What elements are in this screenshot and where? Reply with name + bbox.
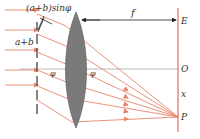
diffraction-grating-diagram: (a+b)sinφ a+b f E O x P φ φ [0, 0, 200, 139]
convex-lens [66, 12, 87, 128]
path-difference-label: (a+b)sinφ [26, 3, 72, 13]
focal-length-label: f [130, 7, 137, 18]
center-label-O: O [181, 64, 189, 74]
angle-left-label: φ [50, 69, 56, 78]
angle-right-label: φ [90, 69, 96, 78]
path-difference-marker [38, 16, 52, 32]
diffracted-rays [37, 14, 178, 122]
incident-rays [5, 10, 38, 85]
grating-constant-label: a+b [15, 37, 34, 47]
focus-point-label-P: P [180, 112, 188, 122]
screen-label-E: E [180, 16, 188, 26]
displacement-label-x: x [181, 89, 186, 99]
